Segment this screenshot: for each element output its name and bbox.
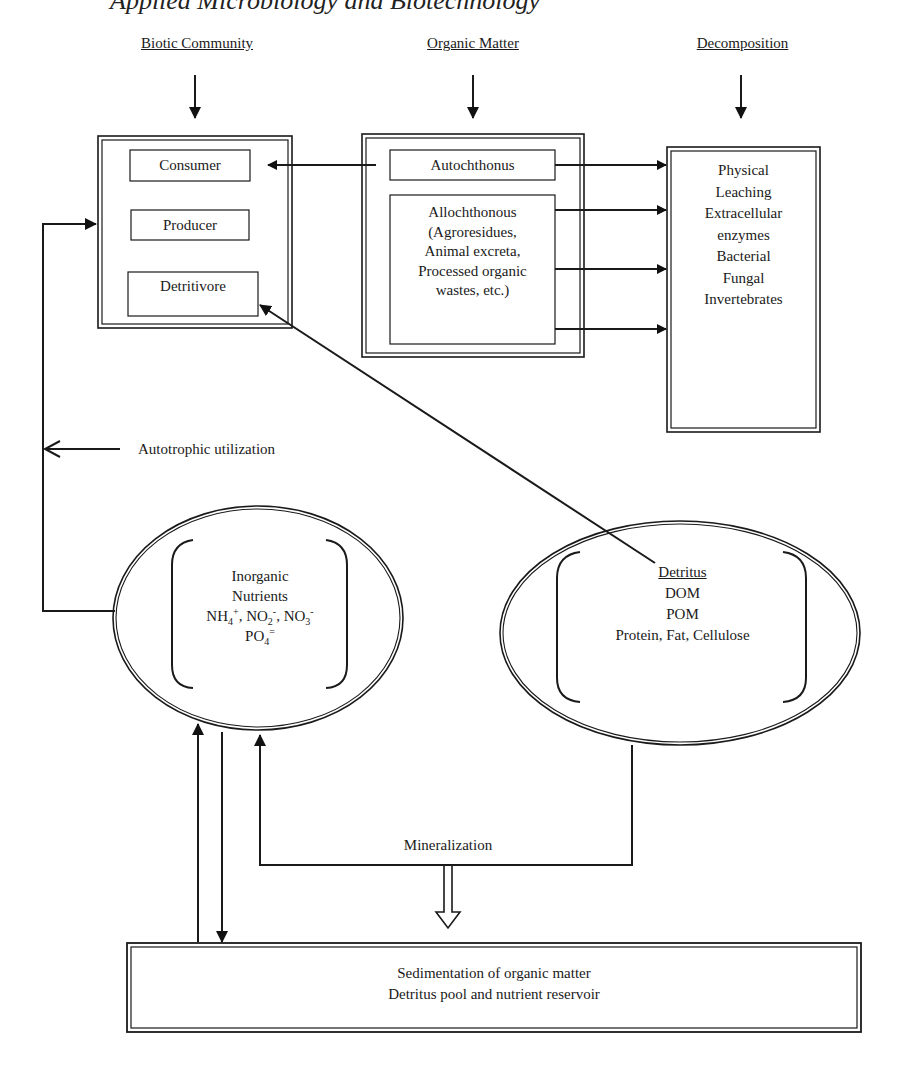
decomposition-item: enzymes [671, 225, 816, 247]
nitrogen-species: NH4+, NO2-, NO3- [180, 606, 340, 626]
detritus-left-bracket [557, 552, 580, 702]
decomposition-agents: Physical Leaching Extracellular enzymes … [671, 160, 816, 311]
producer-label: Producer [131, 216, 249, 235]
inorganic-nutrients-text: Inorganic Nutrients NH4+, NO2-, NO3- PO4… [180, 566, 340, 646]
decomposition-item: Extracellular [671, 203, 816, 225]
decomposition-item: Invertebrates [671, 289, 816, 311]
mineralization-to-sediment-hollow-arrow [436, 866, 460, 928]
decomposition-item: Bacterial [671, 246, 816, 268]
allochthonous-text: Allochthonous (Agroresidues, Animal excr… [390, 203, 555, 301]
phosphate-species: PO4= [180, 626, 340, 646]
decomposition-heading: Decomposition [680, 34, 805, 53]
inorganic-line-1: Inorganic [180, 566, 340, 586]
detritus-title: Detritus [590, 562, 775, 583]
detritus-text: Detritus DOM POM Protein, Fat, Cellulose [590, 562, 775, 646]
detritus-item: POM [590, 604, 775, 625]
allochthonous-line: Allochthonous [390, 203, 555, 223]
detritus-item: Protein, Fat, Cellulose [590, 625, 775, 646]
sediment-line: Sedimentation of organic matter [131, 963, 857, 984]
detritivore-label: Detritivore [128, 277, 258, 296]
organic-matter-heading: Organic Matter [408, 34, 538, 53]
allochthonous-line: Processed organic [390, 262, 555, 282]
inorganic-line-2: Nutrients [180, 586, 340, 606]
biotic-community-heading: Biotic Community [122, 34, 272, 53]
sediment-text: Sedimentation of organic matter Detritus… [131, 963, 857, 1005]
sediment-line: Detritus pool and nutrient reservoir [131, 984, 857, 1005]
detritus-right-bracket [783, 552, 806, 702]
nutrient-feedback-line [43, 224, 115, 611]
allochthonous-line: wastes, etc.) [390, 281, 555, 301]
consumer-label: Consumer [130, 156, 250, 175]
autochthonus-label: Autochthonus [390, 156, 555, 175]
decomposition-item: Fungal [671, 268, 816, 290]
allochthonous-line: (Agroresidues, [390, 223, 555, 243]
mineralization-label: Mineralization [368, 836, 528, 855]
decomposition-item: Leaching [671, 182, 816, 204]
autotrophic-utilization-label: Autotrophic utilization [138, 440, 275, 459]
allochthonous-line: Animal excreta, [390, 242, 555, 262]
decomposition-item: Physical [671, 160, 816, 182]
detritus-item: DOM [590, 583, 775, 604]
